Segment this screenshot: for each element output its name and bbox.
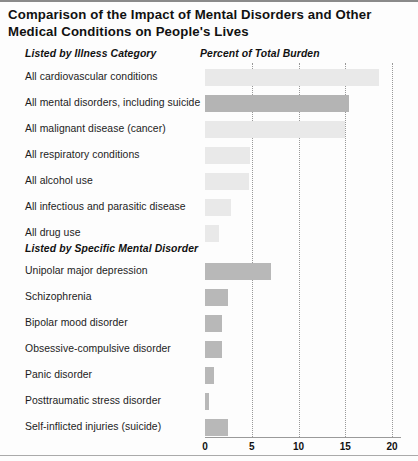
x-tick-label-5: 5 [249,441,255,452]
bar [205,199,231,216]
bar-row: Obsessive-compulsive disorder [0,338,418,364]
bar-row: Unipolar major depression [0,260,418,286]
bar-row: All cardiovascular conditions [0,66,418,92]
bar [205,121,345,138]
bar-row: All drug use [0,222,418,248]
bar-row: All malignant disease (cancer) [0,118,418,144]
bar-label: All drug use [25,227,80,238]
bar-label: Schizophrenia [25,291,92,302]
bar [205,419,228,436]
x-tick-label-0: 0 [202,441,208,452]
x-tick-label-10: 10 [293,441,304,452]
bar [205,393,209,410]
bar-label: All infectious and parasitic disease [25,201,186,212]
bar [205,315,222,332]
bar-label: All cardiovascular conditions [25,71,158,82]
bar [205,263,271,280]
bar [205,341,222,358]
bar-row: Panic disorder [0,364,418,390]
bar [205,289,228,306]
bar-label: Bipolar mood disorder [25,317,128,328]
bar-row: All alcohol use [0,170,418,196]
bar [205,95,349,112]
bar-label: Self-inflicted injuries (suicide) [25,421,161,432]
bar-label: All malignant disease (cancer) [25,123,166,134]
bar [205,69,379,86]
bar-label: Unipolar major depression [25,265,148,276]
bar-row: All infectious and parasitic disease [0,196,418,222]
bar-label: Obsessive-compulsive disorder [25,343,171,354]
bar-label: All respiratory conditions [25,149,140,160]
chart-figure: Comparison of the Impact of Mental Disor… [0,0,418,461]
bottom-divider [0,455,418,456]
bar-row: Schizophrenia [0,286,418,312]
bar [205,367,214,384]
bar [205,173,249,190]
bar-row: Posttraumatic stress disorder [0,390,418,416]
bar-row: All mental disorders, including suicide [0,92,418,118]
bar-row: All respiratory conditions [0,144,418,170]
bar-row: Self-inflicted injuries (suicide) [0,416,418,442]
x-tick-label-20: 20 [386,441,397,452]
x-tick-label-15: 15 [340,441,351,452]
bar-label: Panic disorder [25,369,92,380]
bar [205,225,219,242]
x-axis-line [205,437,401,438]
bar [205,147,250,164]
bar-row: Bipolar mood disorder [0,312,418,338]
bar-label: All alcohol use [25,175,93,186]
bar-label: All mental disorders, including suicide [25,97,200,108]
bar-label: Posttraumatic stress disorder [25,395,161,406]
bar-rows: All cardiovascular conditionsAll mental … [0,0,418,461]
